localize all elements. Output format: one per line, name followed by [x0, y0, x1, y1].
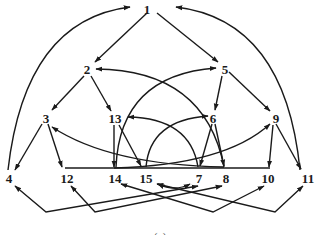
edge-2-13 [91, 76, 111, 111]
nodes: 1 2 5 3 13 6 9 4 12 14 15 7 8 10 11 [6, 2, 314, 186]
edge-1-5 [157, 13, 218, 62]
figure-caption: (a) [154, 230, 167, 235]
node-7: 7 [196, 171, 203, 186]
node-12: 12 [61, 171, 74, 186]
edge-6-8 [215, 124, 224, 166]
edge-11-1 [176, 7, 300, 170]
edge-15-7 [158, 184, 190, 188]
edge-5-9 [229, 72, 270, 111]
node-10: 10 [262, 171, 275, 186]
node-9: 9 [273, 111, 280, 126]
edge-3-12 [48, 124, 62, 167]
edge-1-2 [95, 13, 147, 62]
edge-14-9 [114, 124, 270, 168]
edge-9-10 [269, 125, 273, 167]
edge-4-1 [8, 7, 130, 170]
edge-3-4 [15, 124, 42, 170]
node-1: 1 [144, 2, 151, 17]
edge-2-3 [52, 76, 84, 110]
directed-graph: 1 2 5 3 13 6 9 4 12 14 15 7 8 10 11 (a) [0, 0, 319, 235]
node-2: 2 [84, 62, 91, 77]
edge-6-7 [200, 124, 212, 166]
node-14: 14 [109, 171, 123, 186]
edges [8, 7, 303, 212]
node-3: 3 [43, 111, 50, 126]
node-5: 5 [222, 62, 229, 77]
node-8: 8 [223, 171, 230, 186]
node-6: 6 [210, 111, 217, 126]
edge-5-6 [215, 76, 222, 110]
edge-13-15 [119, 125, 141, 166]
node-4: 4 [6, 171, 13, 186]
node-13: 13 [109, 111, 123, 126]
edge-15-6 [146, 116, 208, 167]
edge-14-10 [121, 184, 264, 212]
node-11: 11 [302, 171, 314, 186]
node-15: 15 [140, 171, 154, 186]
